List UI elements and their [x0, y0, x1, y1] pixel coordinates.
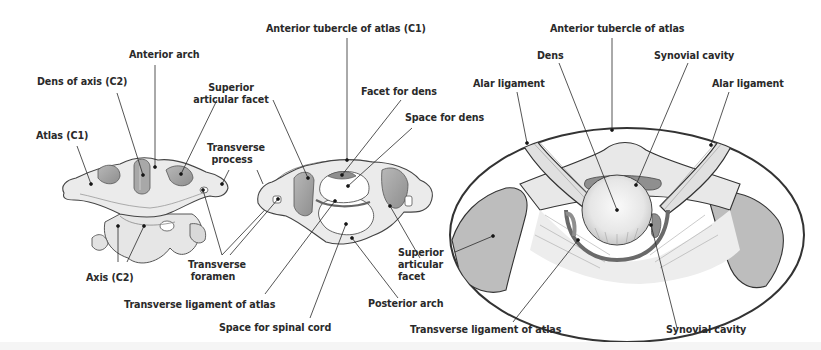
label-anterior-tubercle: Anterior tubercle of atlas: [550, 23, 684, 35]
label-anterior-arch: Anterior arch: [129, 49, 199, 61]
label-synovial-cavity-top: Synovial cavity: [654, 50, 734, 62]
label-transverse-ligament-1: Transverse ligament of atlas: [124, 299, 275, 311]
label-transverse-process: Transverse process: [207, 142, 257, 166]
label-space-for-dens: Space for dens: [405, 112, 484, 124]
label-axis-c2: Axis (C2): [86, 272, 134, 284]
label-posterior-arch: Posterior arch: [368, 298, 443, 310]
label-anterior-tubercle-c1: Anterior tubercle of atlas (C1): [266, 23, 426, 35]
bottom-edge: [0, 342, 821, 350]
label-superior-articular-facet-1: Superior articular facet: [191, 82, 271, 106]
label-transverse-ligament-2: Transverse ligament of atlas: [410, 324, 561, 336]
label-facet-for-dens: Facet for dens: [361, 86, 437, 98]
label-synovial-cavity-bottom: Synovial cavity: [666, 324, 746, 336]
label-transverse-foramen: Transverse foramen: [188, 259, 238, 283]
anatomy-diagram: Anterior arch Dens of axis (C2) Atlas (C…: [0, 0, 821, 350]
label-superior-articular-facet-2: Superior articular facet: [398, 247, 468, 283]
label-atlas-c1: Atlas (C1): [36, 130, 88, 142]
label-space-for-spinal-cord: Space for spinal cord: [219, 322, 331, 334]
label-dens-of-axis: Dens of axis (C2): [37, 76, 127, 88]
label-alar-ligament-left: Alar ligament: [473, 78, 545, 90]
label-alar-ligament-right: Alar ligament: [712, 78, 784, 90]
label-dens: Dens: [537, 50, 564, 62]
